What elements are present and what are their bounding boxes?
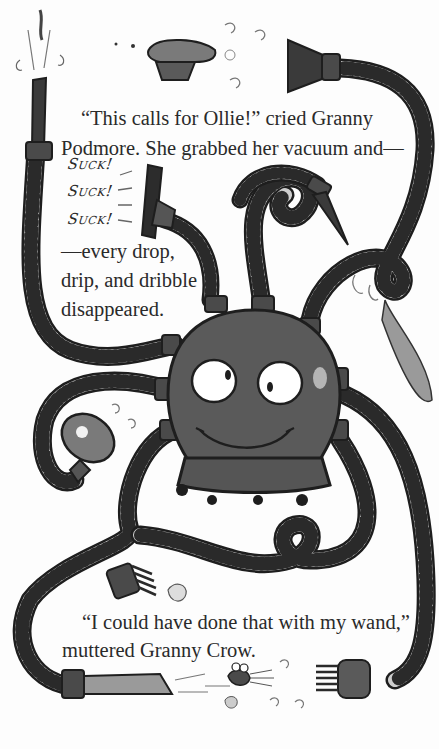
trumpet-nozzle [225,23,340,92]
story-line-5: disappeared. [61,294,164,324]
sound-effect-2: Suck! [67,182,114,200]
story-line-1: “This calls for Ollie!” cried Granny [81,103,373,133]
bottom-brush [270,660,370,708]
bug-icon [225,663,274,708]
brush-attachment [106,562,187,601]
ollie-robot [155,296,348,506]
sound-effect-1: Suck! [67,155,114,173]
muffin-icon [115,40,236,80]
vacuum-nozzle [118,165,175,238]
showerhead-icon [52,404,135,482]
sound-effect-3: Suck! [67,210,114,228]
story-line-4: drip, and dribble [61,265,197,295]
story-line-3: —every drop, [61,236,175,266]
crevice-tool-top-left [16,10,63,160]
story-line-6: “I could have done that with my wand,” [82,607,410,637]
book-page: “This calls for Ollie!” cried Granny Pod… [0,0,439,749]
bottom-crevice-tool [62,670,230,698]
story-line-7: muttered Granny Crow. [62,635,256,665]
